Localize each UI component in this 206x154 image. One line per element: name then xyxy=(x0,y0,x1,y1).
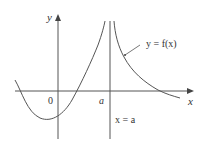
x-axis-arrow-icon xyxy=(187,88,194,94)
curve-left-branch xyxy=(15,21,105,119)
a-tick-label: a xyxy=(99,95,104,106)
origin-label: 0 xyxy=(48,95,53,106)
x-axis xyxy=(15,88,194,94)
asymptote-label: x = a xyxy=(115,114,136,125)
function-graph-diagram: y 0 a x y = f(x) x = a xyxy=(0,0,206,154)
y-axis xyxy=(55,14,61,139)
curve-right-branch xyxy=(114,21,180,98)
curve-label: y = f(x) xyxy=(146,38,177,50)
y-axis-label: y xyxy=(46,11,52,23)
x-axis-label: x xyxy=(187,95,193,107)
leader-dot-icon xyxy=(124,54,126,56)
y-axis-arrow-icon xyxy=(55,14,61,21)
curve-label-leader-line xyxy=(125,45,140,55)
